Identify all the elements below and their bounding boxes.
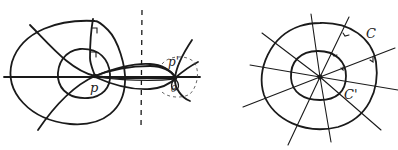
left-panel: p p' θ	[4, 10, 200, 130]
point-p-dot	[93, 74, 98, 79]
center-point-dot	[318, 75, 323, 80]
right-angle-mark-r1	[343, 33, 349, 36]
label-p: p	[90, 80, 99, 95]
right-angle-mark-lower	[91, 52, 96, 57]
outer-geodesic-circle	[11, 21, 126, 125]
right-angle-mark-upper	[92, 28, 97, 33]
point-p-prime-dot	[173, 76, 178, 81]
label-C-prime: C'	[344, 87, 358, 102]
dashed-separator-line	[141, 10, 142, 130]
label-p-prime: p'	[168, 55, 179, 69]
right-angle-mark-r4	[341, 67, 343, 70]
geodesic-curve-1	[30, 25, 176, 79]
diagram-figure: p p' θ C C'	[0, 0, 398, 150]
right-panel: C C'	[243, 14, 398, 145]
label-theta: θ	[171, 84, 177, 94]
label-C: C	[366, 26, 376, 41]
